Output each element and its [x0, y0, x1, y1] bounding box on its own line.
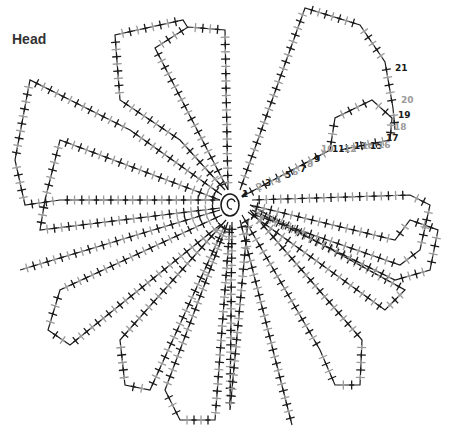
crochet-chart: 123456789101112131415161718192021 [0, 0, 453, 444]
round-label: 20 [401, 95, 414, 105]
round-label: 11 [332, 144, 345, 154]
round-label: 5 [285, 170, 291, 180]
round-label: 4 [275, 175, 281, 185]
petal-top-center [154, 23, 232, 190]
round-label: 6 [292, 167, 298, 177]
petal-bottom-center-left [163, 222, 234, 425]
round-label: 3 [265, 178, 271, 188]
petal-top-left-outer [111, 17, 225, 190]
petal-bottom-left [116, 220, 226, 393]
round-label: 9 [314, 154, 320, 164]
round-label: 18 [394, 122, 407, 132]
round-label: 19 [398, 110, 411, 120]
round-label: 7 [300, 164, 306, 174]
round-label: 8 [307, 159, 313, 169]
round-label: 21 [395, 63, 408, 73]
round-label: 17 [386, 133, 399, 143]
round-label: 1 [242, 189, 248, 199]
round-label: 2 [256, 182, 262, 192]
petal-lower-left-loop [46, 214, 222, 345]
